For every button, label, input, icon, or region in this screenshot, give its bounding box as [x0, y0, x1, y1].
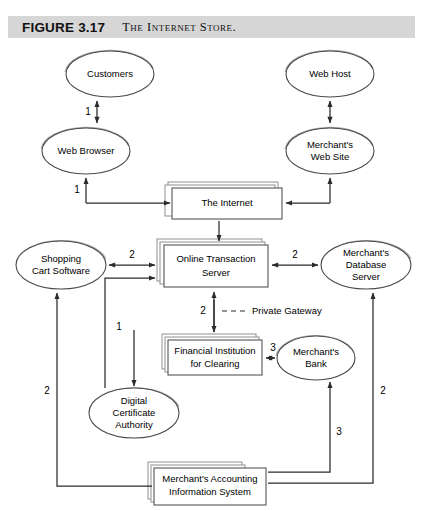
- edge-browser-internet-label: 1: [74, 184, 80, 195]
- edge-fi-bank-label: 3: [270, 342, 276, 353]
- edge-private-gateway: 2 Private Gateway: [200, 292, 322, 332]
- edge-gateway-text-label: Private Gateway: [252, 305, 322, 316]
- edge-ots-dca-label: 1: [116, 321, 122, 332]
- shopping-cart-label-2: Cart Software: [32, 265, 90, 276]
- web-browser-label: Web Browser: [58, 145, 115, 156]
- merchants-bank-label-1: Merchant's: [293, 346, 339, 357]
- node-web-browser: Web Browser: [42, 128, 130, 174]
- web-host-label: Web Host: [309, 68, 351, 79]
- edge-mais-bank-label: 3: [336, 426, 342, 437]
- edge-mais-cart-label: 2: [44, 385, 50, 396]
- node-merchants-web-site: Merchant's Web Site: [286, 128, 374, 174]
- edge-web-browser-internet: 1: [74, 178, 170, 203]
- figure-root: FIGURE 3.17 The Internet Store. Customer…: [0, 0, 424, 511]
- edge-mais-db-label: 2: [380, 385, 386, 396]
- edge-fi-bank: 3: [266, 342, 276, 358]
- node-online-transaction-server: Online Transaction Server: [157, 239, 268, 287]
- merchants-bank-label-2: Bank: [305, 358, 327, 369]
- node-merchants-bank: Merchant's Bank: [277, 336, 355, 380]
- internet-store-diagram: Customers Web Browser Web Host Merchant'…: [0, 0, 424, 511]
- edge-ots-db-label: 2: [292, 249, 298, 260]
- edge-customers-browser-label: 1: [85, 106, 91, 117]
- node-shopping-cart-software: Shopping Cart Software: [16, 241, 106, 289]
- mais-label-1: Merchant's Accounting: [162, 473, 257, 484]
- ots-label-1: Online Transaction: [176, 253, 255, 264]
- dca-label-2: Certificate: [113, 407, 156, 418]
- fi-label-2: for Clearing: [190, 358, 239, 369]
- merchants-db-label-1: Merchant's: [343, 247, 389, 258]
- node-web-host: Web Host: [286, 51, 374, 97]
- edge-cart-ots: 2: [109, 249, 155, 265]
- node-financial-institution: Financial Institution for Clearing: [162, 334, 262, 375]
- node-digital-certificate-authority: Digital Certificate Authority: [89, 388, 179, 438]
- node-merchants-database-server: Merchant's Database Server: [321, 241, 411, 289]
- node-merchants-accounting: Merchant's Accounting Information System: [148, 462, 266, 505]
- ots-label-2: Server: [202, 267, 230, 278]
- customers-label: Customers: [87, 68, 133, 79]
- edge-ots-dca: 1: [105, 278, 155, 388]
- edge-internet-merchants-site: [286, 178, 330, 203]
- edge-mais-bank-path: [268, 382, 330, 472]
- mais-label-2: Information System: [169, 486, 251, 497]
- edge-gateway-num-label: 2: [200, 305, 206, 316]
- edge-mais-db-path: [268, 293, 373, 483]
- merchants-db-label-3: Server: [352, 271, 380, 282]
- edge-mais-database-right: 2: [268, 293, 386, 483]
- shopping-cart-label-1: Shopping: [41, 253, 81, 264]
- merchants-web-site-label-1: Merchant's: [307, 139, 353, 150]
- node-the-internet: The Internet: [165, 182, 282, 219]
- dca-label-1: Digital: [121, 395, 147, 406]
- dca-label-3: Authority: [115, 419, 153, 430]
- the-internet-label: The Internet: [201, 197, 253, 208]
- node-customers: Customers: [66, 51, 154, 97]
- edge-ots-dca-elbow: [105, 278, 155, 388]
- edge-ots-database: 2: [272, 249, 318, 265]
- edge-mais-bank: 3: [268, 382, 342, 472]
- edge-customers-web-browser: 1: [85, 101, 97, 123]
- merchants-db-label-2: Database: [346, 259, 387, 270]
- edge-cart-ots-label: 2: [129, 249, 135, 260]
- fi-label-1: Financial Institution: [174, 345, 255, 356]
- merchants-web-site-label-2: Web Site: [311, 151, 349, 162]
